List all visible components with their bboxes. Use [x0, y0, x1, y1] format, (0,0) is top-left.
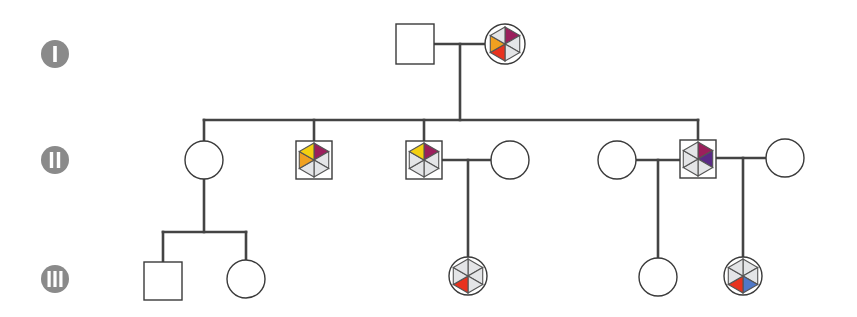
individual-iii2-female: [227, 260, 265, 298]
pedigree-diagram: [0, 0, 857, 317]
individual-ii1-female: [185, 141, 223, 179]
generation-label-ii: [41, 146, 69, 174]
individual-ii5-female: [598, 141, 636, 179]
individual-iii4-female: [639, 258, 677, 296]
pedigree-canvas: [0, 0, 857, 317]
individual-ii4-female: [491, 141, 529, 179]
generation-label-i: [41, 40, 69, 68]
individual-ii7-female: [766, 139, 804, 177]
generation-label-iii: [41, 265, 69, 293]
individual-iii1-male: [144, 262, 182, 300]
individual-i1-male: [396, 24, 434, 64]
relationship-lines: [163, 44, 766, 262]
